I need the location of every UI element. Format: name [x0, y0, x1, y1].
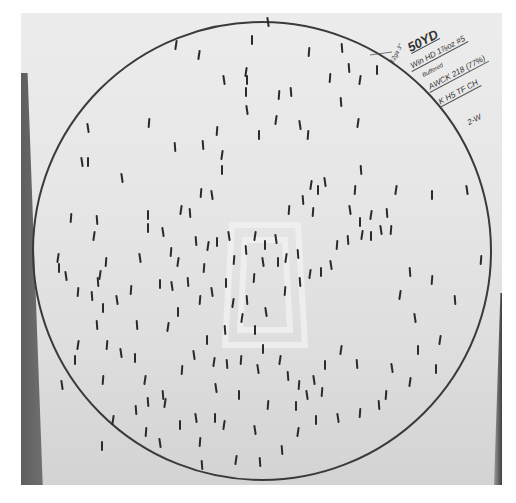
pellet-hit: [163, 391, 164, 399]
pellet-hit: [241, 356, 242, 364]
pellet-hit: [177, 258, 178, 266]
pellet-hit: [190, 209, 191, 217]
pellet-hit: [195, 414, 196, 422]
pellet-hit: [215, 384, 216, 392]
pellet-hit: [234, 256, 235, 264]
pellet-hit: [247, 296, 248, 304]
pellet-hit: [81, 158, 82, 166]
pellet-hit: [340, 346, 341, 354]
pellet-hit: [288, 372, 289, 380]
pellet-hit: [298, 250, 299, 258]
pellet-hit: [120, 349, 121, 357]
pellet-hit: [279, 91, 280, 99]
pellet-hit: [57, 254, 58, 262]
pellet-hit: [245, 68, 246, 76]
pellet-hit: [112, 416, 113, 424]
pellet-hit: [223, 421, 224, 429]
pellet-hit: [337, 414, 338, 422]
pellet-hit: [285, 254, 286, 262]
pellet-hit: [254, 274, 255, 282]
pellet-hit: [207, 242, 208, 250]
pellet-hit: [300, 278, 301, 286]
pellet-hit: [77, 341, 78, 349]
pellet-hit: [99, 271, 100, 279]
pellet-hit: [357, 119, 358, 127]
pellet-hit: [466, 186, 467, 194]
pellet-hit: [391, 226, 392, 234]
pellet-hit: [386, 391, 387, 399]
pellet-hit: [379, 401, 380, 409]
pellet-hit: [355, 186, 356, 194]
pellet-hit: [78, 288, 79, 296]
pellet-hit: [103, 376, 104, 384]
pellet-hit: [204, 264, 205, 272]
pellet-hit: [241, 314, 242, 322]
pellet-hit: [308, 131, 309, 139]
pellet-hit: [61, 381, 62, 389]
pellet-hit: [228, 232, 229, 240]
pellet-hit: [349, 206, 350, 214]
pellet-hit: [232, 299, 233, 307]
pellet-hit: [201, 189, 202, 197]
pellet-hit: [360, 409, 361, 417]
pellet-hit: [139, 254, 140, 262]
pellet-hit: [257, 365, 258, 373]
pellet-hit: [171, 282, 172, 290]
pellet-hit: [348, 236, 349, 244]
pellet-hit: [481, 256, 482, 264]
pellet-hit: [299, 381, 300, 389]
pellet-hit: [357, 360, 358, 368]
pellet-hit: [395, 186, 396, 194]
pellet-hit: [399, 291, 400, 299]
pellet-hit: [330, 74, 331, 82]
pellet-hit: [200, 438, 201, 446]
pellet-hit: [254, 426, 255, 434]
pellet-hit: [309, 270, 310, 278]
pellet-hit: [200, 296, 201, 304]
pellet-hit: [106, 258, 107, 266]
pellet-hits: [57, 18, 481, 469]
pellet-hit: [164, 399, 165, 407]
pellet-hit: [146, 428, 147, 436]
pellet-hit: [97, 321, 98, 329]
pellet-hit: [217, 127, 218, 135]
pellet-hit: [131, 286, 132, 294]
pellet-hit: [149, 119, 150, 127]
pellet-hit: [175, 41, 176, 49]
pellet-hit: [202, 461, 203, 469]
pellet-hit: [97, 216, 98, 224]
pellet-hit: [282, 446, 283, 454]
pellet-hit: [342, 44, 343, 52]
pellet-hit: [289, 206, 290, 214]
pellet-hit: [310, 181, 311, 189]
pellet-hit: [213, 358, 214, 366]
pellet-hit: [285, 287, 286, 295]
pellet-hit: [144, 376, 145, 384]
pellet-hit: [359, 76, 360, 84]
pellet-hit: [409, 378, 410, 386]
pellet-hit: [432, 276, 433, 284]
pattern-circle-svg: [0, 0, 516, 503]
pellet-hit: [137, 321, 138, 329]
pellet-hit: [324, 178, 325, 186]
pellet-hit: [221, 151, 222, 159]
pellet-hit: [107, 341, 108, 349]
pellet-hit: [121, 174, 122, 182]
pellet-hit: [303, 196, 304, 204]
pellet-hit: [246, 106, 247, 114]
pellet-hit: [297, 428, 298, 436]
pellet-hit: [260, 458, 261, 466]
pellet-hit: [162, 228, 163, 236]
pellet-hit: [211, 288, 212, 296]
pellet-hit: [188, 278, 189, 286]
pellet-hit: [265, 308, 266, 316]
pellet-hit: [93, 232, 94, 240]
pellet-hit: [71, 214, 72, 222]
pellet-hit: [262, 258, 263, 266]
pellet-hit: [455, 296, 456, 304]
pellet-hit: [65, 272, 66, 280]
pellet-hit: [439, 336, 440, 344]
pellet-hit: [136, 406, 137, 414]
pellet-hit: [235, 456, 236, 464]
pellet-hit: [361, 166, 362, 174]
